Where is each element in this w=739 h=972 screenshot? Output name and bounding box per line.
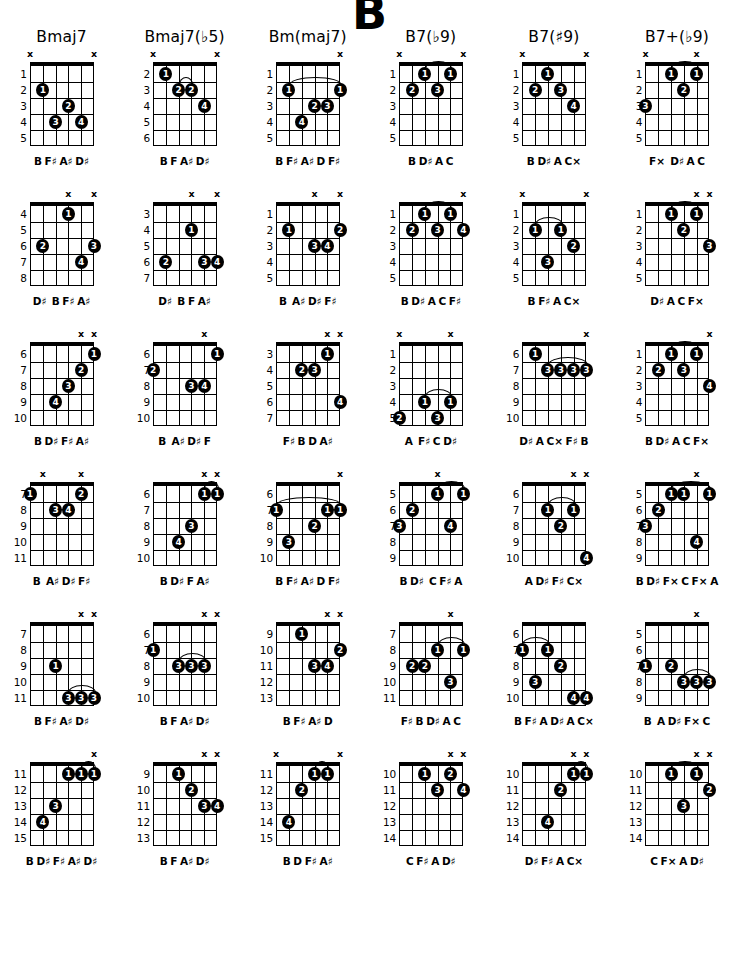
fret-line — [645, 222, 709, 223]
finger-dot: 2 — [554, 783, 567, 797]
muted-string-marker: x — [336, 749, 345, 758]
fretboard-edge — [462, 626, 463, 706]
chord-cell[interactable]: 34567xx1234F♯BDA♯ — [246, 332, 369, 472]
note-name: D♯ — [550, 715, 564, 727]
fret-line — [522, 550, 586, 551]
chord-cell[interactable]: 1112131415x11134BD♯F♯A♯D♯ — [0, 752, 123, 892]
chord-cell[interactable]: 678910x11123BF♯A♯DF♯ — [246, 472, 369, 612]
chord-cell[interactable]: 12345xx1123AF♯CD♯ — [369, 332, 492, 472]
fret-number: 11 — [497, 785, 519, 795]
finger-dot: 1 — [321, 503, 334, 517]
fret-number: 1 — [251, 69, 273, 79]
chord-cell[interactable]: 12345xx1123BF♯AC× — [492, 192, 615, 332]
fret-number: 1 — [251, 209, 273, 219]
fret-number: 1 — [620, 69, 642, 79]
fret-number: 9 — [497, 537, 519, 547]
fret-line — [30, 98, 94, 99]
note-name: F♯ — [552, 575, 564, 587]
finger-dot: 1 — [270, 503, 283, 517]
fret-line — [276, 270, 340, 271]
chord-cell[interactable]: 678910x1234BA♯D♯F — [123, 332, 246, 472]
chord-cell[interactable]: 7891011xx1234BA♯D♯F♯ — [0, 472, 123, 612]
chord-cell[interactable]: 1112131415xx1124BDF♯A♯ — [246, 752, 369, 892]
fretboard-edge — [30, 145, 94, 146]
chord-cell[interactable]: 910111213xx1234BF♯A♯D — [246, 612, 369, 752]
fret-number: 9 — [497, 397, 519, 407]
fret-number: 7 — [128, 505, 150, 515]
note-name: D♯ — [690, 855, 704, 867]
chord-cell[interactable]: 23456xx1224BFA♯D♯ — [123, 52, 246, 192]
fretboard-edge — [399, 766, 400, 846]
note-name: B — [177, 295, 185, 307]
fretboard-edge — [522, 425, 586, 426]
chord-cell[interactable]: 910111213xx1234BFA♯D♯ — [123, 752, 246, 892]
finger-dot: 2 — [677, 223, 690, 237]
fret-number: 1 — [374, 349, 396, 359]
fretboard-edge — [30, 766, 31, 846]
note-name: F — [170, 855, 177, 867]
fret-line — [30, 534, 94, 535]
string-line — [548, 626, 549, 706]
fret-number: 4 — [497, 117, 519, 127]
muted-string-marker: x — [569, 469, 578, 478]
chord-cell[interactable]: 12345x11234BD♯ACF× — [615, 332, 738, 472]
chord-cell[interactable]: 56789x111234BD♯F×CF×A — [615, 472, 738, 612]
fret-line — [30, 518, 94, 519]
chord-cell[interactable]: 56789x12333BAD♯F×C — [615, 612, 738, 752]
fret-number: 11 — [374, 693, 396, 703]
finger-dot: 2 — [159, 255, 172, 269]
string-line — [81, 66, 82, 146]
chord-cell[interactable]: 678910xx1234BD♯F♯A♯ — [0, 332, 123, 472]
finger-dot: 2 — [529, 83, 542, 97]
chord-cell[interactable]: 678910x13333D♯AC×F♯B — [492, 332, 615, 472]
chord-cell[interactable]: 678910112344BF♯AD♯AC× — [492, 612, 615, 752]
fret-number: 7 — [374, 629, 396, 639]
fretboard-edge — [462, 766, 463, 846]
chord-cell[interactable]: 12345xx1234BF♯A♯D♯ — [0, 52, 123, 192]
chord-cell[interactable]: 45678xx1234D♯BF♯A♯ — [0, 192, 123, 332]
fret-number: 4 — [251, 365, 273, 375]
chord-cell[interactable]: 678910xx1134BD♯FA♯ — [123, 472, 246, 612]
finger-dot: 4 — [567, 99, 580, 113]
fretboard-edge — [30, 66, 31, 146]
string-line — [289, 66, 290, 146]
chord-note-names: BA♯D♯F — [123, 435, 246, 447]
chord-cell[interactable]: 7891011x11223F♯BD♯AC — [369, 612, 492, 752]
string-line — [81, 346, 82, 426]
column-title: B7(♯9) — [492, 28, 615, 46]
fret-line — [522, 130, 586, 131]
string-line — [535, 66, 536, 146]
chord-cell[interactable]: 12345xx1123D♯ACF× — [615, 192, 738, 332]
finger-dot: 4 — [282, 815, 295, 829]
chord-diagram: 678910xx1234 — [30, 346, 94, 426]
chord-cell[interactable]: 1011121314xx1124D♯F♯AC× — [492, 752, 615, 892]
fretboard-edge — [276, 565, 340, 566]
chord-cell[interactable]: 678910xx1333BFA♯D♯ — [123, 612, 246, 752]
chord-cell[interactable]: 1011121314xx1123CF×AD♯ — [615, 752, 738, 892]
chord-cell[interactable]: 34567xx1234D♯BFA♯ — [123, 192, 246, 332]
note-name: D♯ — [75, 715, 89, 727]
string-line — [166, 486, 167, 566]
chord-cell[interactable]: 12345xx1234BD♯AC× — [492, 52, 615, 192]
chord-cell[interactable]: 7891011xx1333BF♯A♯D♯ — [0, 612, 123, 752]
string-line — [166, 206, 167, 286]
string-line — [412, 766, 413, 846]
chord-cell[interactable]: 12345x11234BF♯A♯DF♯ — [246, 52, 369, 192]
note-name: A — [428, 295, 436, 307]
chord-cell[interactable]: 56789x11234BD♯CF♯A — [369, 472, 492, 612]
fretboard-edge — [153, 845, 217, 846]
chord-cell[interactable]: 12345x11234BD♯ACF♯ — [369, 192, 492, 332]
fret-line — [30, 550, 94, 551]
note-name: F♯ — [61, 435, 73, 447]
muted-string-marker: x — [692, 49, 701, 58]
string-line — [179, 206, 180, 286]
fret-line — [153, 502, 217, 503]
chord-cell[interactable]: 678910xx1124AD♯F♯C× — [492, 472, 615, 612]
fretboard-edge — [585, 66, 586, 146]
chord-cell[interactable]: 12345xx1123BD♯AC — [369, 52, 492, 192]
chord-cell[interactable]: 12345xx1123F×D♯AC — [615, 52, 738, 192]
chord-cell[interactable]: 12345xx1234BA♯D♯F♯ — [246, 192, 369, 332]
string-line — [289, 206, 290, 286]
string-line — [56, 66, 57, 146]
chord-cell[interactable]: 1011121314xx1234CF♯AD♯ — [369, 752, 492, 892]
